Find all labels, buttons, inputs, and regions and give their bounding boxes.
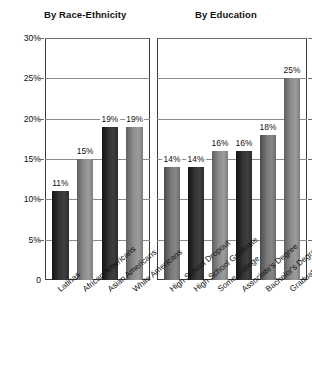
bar: 19% bbox=[126, 127, 142, 280]
bar-value-label: 16% bbox=[210, 138, 230, 149]
axis-tick-mark bbox=[308, 199, 312, 200]
bar: 16% bbox=[236, 151, 252, 280]
y-axis-tick-label: 10% bbox=[7, 194, 41, 204]
bar: 18% bbox=[260, 135, 276, 280]
bar-value-label: 11% bbox=[51, 178, 70, 189]
panel-title-education: By Education bbox=[195, 9, 257, 20]
bar: 15% bbox=[77, 159, 93, 280]
bar-value-label: 14% bbox=[162, 154, 182, 165]
bar-value-label: 18% bbox=[258, 122, 278, 133]
bar-slot: 16% bbox=[232, 38, 256, 280]
y-axis-tick-label: 0 bbox=[7, 275, 41, 285]
bar: 11% bbox=[52, 191, 68, 280]
bar-value-label: 19% bbox=[100, 114, 120, 125]
plot-panel-race-ethnicity: 11%15%19%19% bbox=[45, 38, 150, 280]
bar-value-label: 15% bbox=[75, 146, 95, 157]
bar-slot: 15% bbox=[73, 38, 98, 280]
axis-tick-mark bbox=[39, 159, 44, 160]
axis-tick-mark bbox=[39, 199, 44, 200]
bar-slot: 14% bbox=[184, 38, 208, 280]
axis-tick-mark bbox=[39, 240, 44, 241]
bar-slot: 19% bbox=[122, 38, 147, 280]
bar-slot: 19% bbox=[98, 38, 123, 280]
axis-tick-mark bbox=[308, 119, 312, 120]
axis-tick-mark bbox=[308, 78, 312, 79]
axis-tick-mark bbox=[308, 159, 312, 160]
bar: 14% bbox=[188, 167, 204, 280]
plot-panel-education: 14%14%16%16%18%25% bbox=[157, 38, 307, 280]
bar-slot: 25% bbox=[280, 38, 304, 280]
bar-value-label: 19% bbox=[125, 114, 145, 125]
bar: 19% bbox=[102, 127, 118, 280]
bar-value-label: 14% bbox=[186, 154, 206, 165]
y-axis-tick-label: 5% bbox=[7, 235, 41, 245]
y-axis-tick-label: 20% bbox=[7, 114, 41, 124]
bar-group-race-ethnicity: 11%15%19%19% bbox=[45, 38, 150, 280]
bar-group-education: 14%14%16%16%18%25% bbox=[157, 38, 307, 280]
bar: 14% bbox=[164, 167, 180, 280]
x-axis-category-labels: LatinasAfrican AmericansAsian AmericansW… bbox=[0, 284, 312, 376]
y-axis: 30%25%20%15%10%5%0 bbox=[0, 0, 41, 377]
y-axis-tick-label: 30% bbox=[7, 33, 41, 43]
bar-slot: 11% bbox=[48, 38, 73, 280]
bar-slot: 18% bbox=[256, 38, 280, 280]
bar-value-label: 16% bbox=[234, 138, 254, 149]
bar: 16% bbox=[212, 151, 228, 280]
axis-tick-mark bbox=[39, 38, 44, 39]
panel-title-race-ethnicity: By Race-Ethnicity bbox=[44, 9, 126, 20]
axis-tick-mark bbox=[39, 119, 44, 120]
axis-tick-mark bbox=[39, 78, 44, 79]
bar-slot: 16% bbox=[208, 38, 232, 280]
y-axis-tick-label: 15% bbox=[7, 154, 41, 164]
axis-tick-mark bbox=[308, 38, 312, 39]
bar-slot: 14% bbox=[160, 38, 184, 280]
y-axis-tick-label: 25% bbox=[7, 73, 41, 83]
bar-value-label: 25% bbox=[282, 65, 302, 76]
axis-tick-mark bbox=[308, 240, 312, 241]
bar: 25% bbox=[284, 78, 300, 280]
chart-figure: By Race-Ethnicity By Education 30%25%20%… bbox=[0, 0, 312, 377]
